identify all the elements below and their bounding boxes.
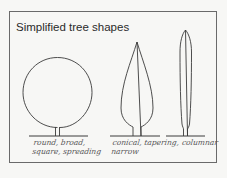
columnar-caption-line1: columnar: [181, 138, 218, 147]
conical-caption-line2: narrow: [111, 147, 179, 156]
round-caption-line2: square, spreading: [32, 147, 102, 156]
conical-tree-caption: conical, tapering, narrow: [111, 138, 180, 156]
round-tree-caption: round, broad, square, spreading: [32, 138, 103, 156]
columnar-tree-icon: [166, 30, 205, 136]
conical-caption-line1: conical, tapering,: [112, 138, 180, 147]
round-caption-line1: round, broad,: [33, 138, 103, 147]
conical-tree-icon: [110, 42, 160, 136]
round-tree-icon: [23, 58, 92, 137]
columnar-tree-caption: columnar: [181, 138, 218, 147]
